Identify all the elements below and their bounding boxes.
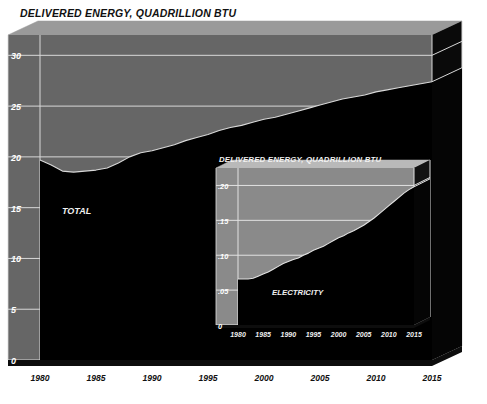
x-axis-tick-label: 2010 bbox=[365, 373, 385, 383]
main-chart-title: DELIVERED ENERGY, QUADRILLION BTU bbox=[20, 7, 236, 19]
x-axis-tick-label: 2000 bbox=[253, 373, 273, 383]
x-axis-tick-label: 1985 bbox=[86, 373, 105, 383]
chart-canvas: DELIVERED ENERGY, QUADRILLION BTU 051015… bbox=[0, 0, 487, 404]
x-axis-tick-label: 2015 bbox=[405, 331, 422, 338]
y-axis-tick-label: 0 bbox=[11, 356, 16, 366]
y-axis-tick-label: .05 bbox=[218, 287, 229, 296]
x-axis-tick-label: 1995 bbox=[198, 373, 217, 383]
series-annotation-label: TOTAL bbox=[62, 206, 91, 216]
x-axis-tick-label: 1995 bbox=[306, 331, 322, 338]
y-axis-tick-label: 15 bbox=[11, 204, 22, 214]
y-axis-tick-label: 10 bbox=[11, 254, 21, 264]
x-axis-tick-label: 2005 bbox=[355, 331, 372, 338]
series-annotation-label: ELECTRICITY bbox=[272, 288, 324, 297]
x-axis-tick-label: 2000 bbox=[330, 331, 347, 338]
y-axis-tick-label: 25 bbox=[10, 102, 22, 112]
inset-chart-title: DELIVERED ENERGY, QUADRILLION BTU bbox=[219, 155, 381, 164]
x-axis-tick-label: 1980 bbox=[230, 331, 246, 338]
x-axis-tick-label: 2015 bbox=[421, 373, 441, 383]
x-axis-tick-label: 1980 bbox=[30, 373, 49, 383]
y-axis-tick-label: .15 bbox=[218, 217, 229, 226]
x-axis-tick-label: 2005 bbox=[309, 373, 329, 383]
x-axis-tick-label: 1990 bbox=[280, 331, 296, 338]
x-axis-tick-label: 1985 bbox=[255, 331, 271, 338]
chart-figure: DELIVERED ENERGY, QUADRILLION BTU 051015… bbox=[0, 0, 487, 404]
x-axis-tick-label: 1990 bbox=[142, 373, 161, 383]
y-axis-tick-label: 30 bbox=[11, 51, 21, 61]
y-axis-tick-label: .10 bbox=[218, 252, 229, 261]
inset-chart-3d-box: 0.05.10.15.20198019851990199520002005201… bbox=[216, 160, 430, 338]
y-axis-tick-label: .20 bbox=[218, 182, 229, 191]
y-axis-tick-label: 20 bbox=[10, 153, 21, 163]
x-axis-tick-label: 2010 bbox=[380, 331, 397, 338]
